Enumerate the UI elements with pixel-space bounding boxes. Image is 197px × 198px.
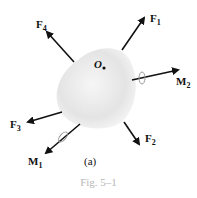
moment-m1-label: M1 [28, 155, 42, 170]
force-f3-label: F3 [10, 118, 21, 133]
force-f4-arrow [47, 32, 74, 62]
moment-m2-label: M2 [176, 75, 190, 90]
force-f1-label: F1 [150, 12, 161, 27]
force-f1-arrow [122, 18, 144, 50]
moment-m1-arrow [46, 124, 80, 153]
panel-label: (a) [84, 155, 97, 168]
force-system-diagram: O F1 F4 M2 F3 M1 F2 (a) [0, 0, 197, 198]
force-f2-arrow [124, 122, 139, 144]
moment-m1-curl-icon [57, 130, 69, 143]
point-o-dot [102, 66, 105, 69]
point-o-label: O [94, 58, 102, 70]
figure-caption: Fig. 5–1 [0, 176, 197, 188]
force-f2-label: F2 [145, 132, 156, 147]
force-f3-arrow [28, 112, 62, 122]
force-f4-label: F4 [36, 18, 47, 33]
